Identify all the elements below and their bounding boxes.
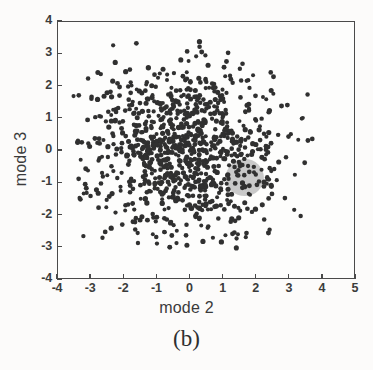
data-point: [178, 88, 183, 93]
data-point: [194, 211, 198, 215]
data-point: [157, 114, 161, 118]
data-point: [156, 76, 160, 80]
data-point: [197, 153, 202, 158]
data-point: [142, 169, 147, 174]
data-point: [126, 139, 131, 144]
data-point: [197, 216, 202, 221]
data-point: [223, 74, 227, 78]
data-point: [169, 86, 173, 90]
data-point: [153, 169, 157, 173]
data-point: [145, 190, 150, 195]
data-point: [119, 126, 124, 131]
data-point: [215, 90, 220, 95]
data-point: [175, 108, 179, 112]
data-point: [101, 138, 105, 142]
data-point: [96, 191, 101, 196]
data-point: [76, 176, 81, 181]
data-point: [226, 201, 231, 206]
y-tick-label: 4: [28, 13, 52, 27]
data-point: [77, 196, 81, 200]
data-point: [133, 227, 138, 232]
x-tick-mark: [156, 274, 157, 279]
data-point: [177, 102, 181, 106]
data-point: [269, 183, 274, 188]
data-point: [211, 236, 215, 240]
data-point: [149, 124, 153, 128]
data-point: [208, 157, 212, 161]
data-point: [130, 202, 134, 206]
data-point: [147, 181, 152, 186]
data-point: [150, 120, 154, 124]
data-point: [240, 61, 245, 66]
data-point: [193, 166, 197, 170]
data-point: [195, 205, 200, 210]
data-point: [120, 130, 125, 135]
data-point: [190, 158, 194, 162]
data-point: [120, 222, 125, 227]
data-point: [254, 118, 258, 122]
data-point: [111, 108, 115, 112]
data-point: [245, 153, 249, 157]
data-point: [310, 137, 315, 142]
x-tick-mark: [89, 274, 90, 279]
data-point: [129, 83, 133, 87]
data-point: [222, 156, 227, 161]
data-point: [224, 91, 228, 95]
data-point: [134, 41, 139, 46]
data-point: [127, 179, 132, 184]
data-point: [139, 197, 143, 201]
x-tick-mark: [288, 274, 289, 279]
data-point: [214, 203, 219, 208]
data-point: [167, 136, 172, 141]
data-point: [154, 215, 159, 220]
y-tick-mark: [57, 149, 62, 150]
y-tick-mark: [57, 214, 62, 215]
data-point: [251, 73, 255, 77]
data-point: [142, 182, 146, 186]
data-point: [162, 176, 167, 181]
data-point: [200, 202, 204, 206]
data-point: [213, 127, 217, 131]
data-point: [192, 109, 197, 114]
data-point: [151, 232, 155, 236]
data-point: [296, 138, 300, 142]
data-point: [95, 97, 100, 102]
data-point: [192, 185, 197, 190]
data-point: [204, 182, 208, 186]
x-tick-mark: [255, 274, 256, 279]
data-point: [239, 137, 243, 141]
data-point: [89, 96, 94, 101]
data-point: [215, 170, 220, 175]
data-point: [208, 200, 213, 205]
data-point: [206, 207, 210, 211]
data-point: [159, 106, 163, 110]
data-point: [95, 141, 99, 145]
data-point: [145, 218, 150, 223]
data-point: [165, 217, 170, 222]
data-point: [155, 153, 160, 158]
data-point: [219, 181, 224, 186]
y-tick-mark: [57, 85, 62, 86]
data-point: [166, 180, 171, 185]
data-point: [150, 157, 155, 162]
y-axis-label: mode 3: [12, 94, 30, 224]
data-point: [220, 111, 224, 115]
data-point: [172, 127, 176, 131]
data-point: [150, 212, 155, 217]
data-point: [155, 100, 160, 105]
data-point: [229, 153, 233, 157]
data-point: [100, 155, 104, 159]
data-point: [197, 39, 202, 44]
data-point: [152, 72, 157, 77]
data-point: [110, 79, 115, 84]
data-point: [123, 69, 128, 74]
data-point: [106, 124, 111, 129]
data-point: [143, 155, 148, 160]
data-point: [129, 144, 134, 149]
data-point: [200, 239, 205, 244]
data-point: [151, 135, 156, 140]
data-point: [137, 123, 142, 128]
data-point: [245, 79, 249, 83]
data-point: [225, 182, 229, 186]
data-point: [152, 109, 156, 113]
